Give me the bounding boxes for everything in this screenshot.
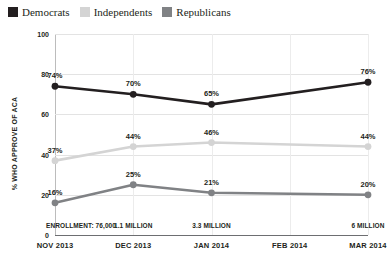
data-point-democrats-0[interactable] [52,83,59,90]
point-label-democrats-2: 65% [204,89,219,98]
data-point-republicans-2[interactable] [208,189,215,196]
legend-swatch-independents [80,7,90,17]
data-point-republicans-4[interactable] [365,191,372,198]
legend-item-republicans: Republicans [162,7,230,18]
y-axis-title: % WHO APPROVE OF ACA [11,84,18,204]
point-label-republicans-4: 20% [360,180,375,189]
data-point-democrats-4[interactable] [365,79,372,86]
point-label-independents-2: 46% [204,128,219,137]
enrollment-annotation-0: ENROLLMENT: 76,000 [46,222,116,229]
legend-item-democrats: Democrats [8,7,70,18]
y-tick-label-100: 100 [37,31,49,38]
x-tick-label-4: MAR 2014 [349,241,386,250]
legend-swatch-republicans [162,7,172,17]
point-label-democrats-4: 76% [360,67,375,76]
legend-swatch-democrats [8,7,18,17]
point-label-republicans-2: 21% [204,178,219,187]
x-tick-label-2: JAN 2014 [194,241,229,250]
data-point-democrats-1[interactable] [130,91,137,98]
point-label-independents-0: 37% [47,146,62,155]
data-point-independents-1[interactable] [130,143,137,150]
x-tick-label-3: FEB 2014 [272,241,307,250]
point-label-independents-4: 44% [360,132,375,141]
point-label-republicans-1: 25% [126,170,141,179]
enrollment-annotation-4: 6 MILLION [351,222,384,229]
point-label-democrats-1: 70% [126,79,141,88]
gridline-0 [55,235,368,236]
data-point-republicans-1[interactable] [130,181,137,188]
legend-label-republicans: Republicans [176,7,230,18]
data-point-independents-4[interactable] [365,143,372,150]
x-tick-label-1: DEC 2013 [115,241,151,250]
data-point-independents-2[interactable] [208,139,215,146]
chart-legend: Democrats Independents Republicans [8,4,231,20]
data-point-republicans-0[interactable] [52,199,59,206]
enrollment-annotation-1: 1.1 MILLION [114,222,153,229]
legend-item-independents: Independents [80,7,153,18]
data-point-independents-0[interactable] [52,157,59,164]
legend-label-democrats: Democrats [22,7,70,18]
point-label-democrats-0: 74% [47,71,62,80]
data-point-democrats-2[interactable] [208,101,215,108]
y-tick-label-60: 60 [41,111,49,118]
enrollment-annotation-2: 3.3 MILLION [192,222,231,229]
x-tick-label-0: NOV 2013 [37,241,74,250]
y-tick-label-0: 0 [45,232,49,239]
point-label-independents-1: 44% [126,132,141,141]
line-chart: % WHO APPROVE OF ACA 020406080100 74%70%… [0,22,384,269]
legend-label-independents: Independents [94,7,153,18]
point-label-republicans-0: 16% [47,188,62,197]
plot-area: 020406080100 74%70%65%76%37%44%46%44%16%… [55,34,368,235]
